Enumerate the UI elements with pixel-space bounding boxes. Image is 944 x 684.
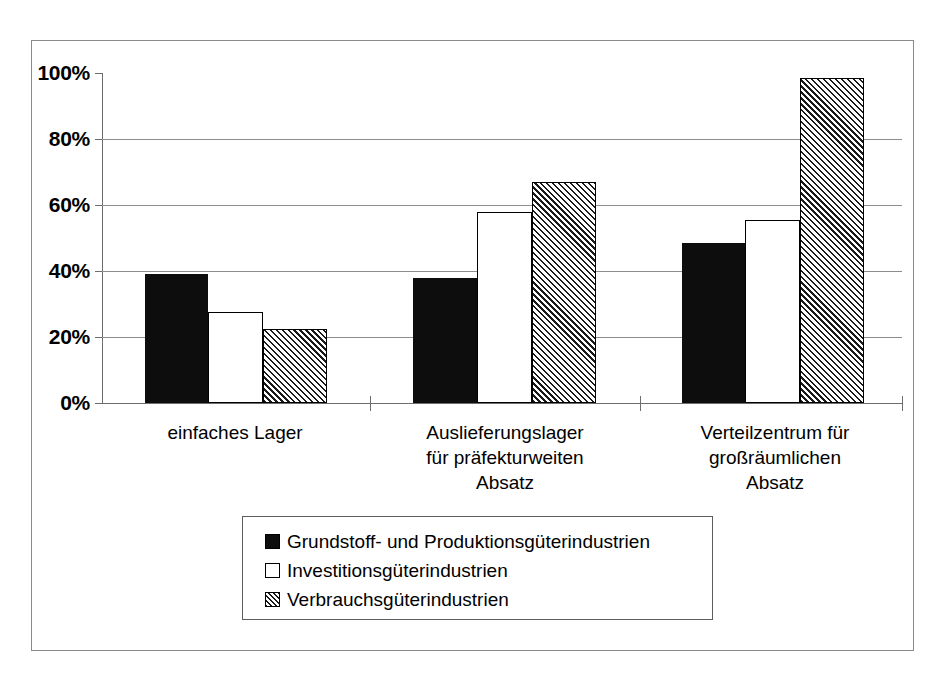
- y-axis-tick-labels: 100% 80% 60% 40% 20% 0%: [0, 0, 90, 684]
- legend-label-2: Investitionsgüterindustrien: [287, 561, 508, 580]
- legend: Grundstoff- und Produktionsgüterindustri…: [242, 516, 713, 620]
- legend-swatch-solid-icon: [265, 534, 280, 549]
- y-tick-label-0: 0%: [60, 392, 90, 413]
- bar-group2-series2[interactable]: [477, 212, 532, 403]
- legend-label-3: Verbrauchsgüterindustrien: [287, 590, 509, 609]
- y-tick-label-100: 100%: [37, 62, 90, 83]
- y-tick-label-80: 80%: [49, 128, 90, 149]
- bar-group2-series1[interactable]: [413, 278, 477, 403]
- legend-swatch-hatched-icon: [265, 592, 280, 607]
- y-tick-label-40: 40%: [49, 260, 90, 281]
- legend-item-3[interactable]: Verbrauchsgüterindustrien: [265, 585, 712, 613]
- x-axis-tick-3: [902, 396, 903, 411]
- bar-group3-series3[interactable]: [800, 78, 864, 403]
- plot-area: [102, 73, 902, 403]
- bar-group3-series2[interactable]: [745, 220, 800, 403]
- bar-group3-series1[interactable]: [682, 243, 745, 403]
- gridline-80: [102, 139, 902, 140]
- legend-item-1[interactable]: Grundstoff- und Produktionsgüterindustri…: [265, 527, 712, 555]
- legend-item-2[interactable]: Investitionsgüterindustrien: [265, 556, 712, 584]
- bar-group2-series3[interactable]: [532, 182, 596, 403]
- y-tick-label-60: 60%: [49, 194, 90, 215]
- category-label-3: Verteilzentrum für großräumlichen Absatz: [670, 420, 880, 495]
- category-label-1: einfaches Lager: [140, 420, 330, 445]
- category-label-2: Auslieferungslager für präfekturweiten A…: [400, 420, 610, 495]
- gridline-60: [102, 205, 902, 206]
- legend-swatch-open-icon: [265, 563, 280, 578]
- y-axis-tick-0: [95, 403, 103, 404]
- legend-label-1: Grundstoff- und Produktionsgüterindustri…: [287, 532, 650, 551]
- bar-group1-series1[interactable]: [145, 274, 208, 403]
- bar-group1-series2[interactable]: [208, 312, 263, 403]
- bar-group1-series3[interactable]: [263, 329, 327, 403]
- x-axis-line: [102, 403, 903, 404]
- y-tick-label-20: 20%: [49, 326, 90, 347]
